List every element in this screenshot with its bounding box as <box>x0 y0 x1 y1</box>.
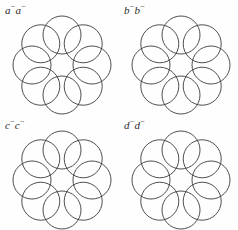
ring-circle <box>141 25 179 63</box>
ring-circle <box>22 25 60 63</box>
panel-b-circle-ring <box>119 0 238 115</box>
panel-b-label-sign-2: − <box>140 2 145 11</box>
panel-c-circle-ring <box>0 115 119 230</box>
panel-a: a−a− <box>0 0 119 115</box>
panel-a-circle-ring <box>0 0 119 115</box>
panel-c-label-sign-2: − <box>20 117 25 126</box>
ring-circle <box>22 140 60 178</box>
panel-b-label: b−b− <box>124 4 145 16</box>
panel-a-label: a−a− <box>5 4 26 16</box>
panel-d: d−d− <box>119 115 238 230</box>
panel-a-label-sign-2: − <box>21 2 26 11</box>
panel-d-label: d−d− <box>124 119 145 131</box>
panel-d-circle-ring <box>119 115 238 230</box>
panel-c-label: c−c− <box>5 119 25 131</box>
panel-d-label-sign-2: − <box>140 117 145 126</box>
panel-c: c−c− <box>0 115 119 230</box>
figure-container: a−a− b−b− c−c− d−d− <box>0 0 238 230</box>
panel-b: b−b− <box>119 0 238 115</box>
ring-circle <box>141 140 179 178</box>
